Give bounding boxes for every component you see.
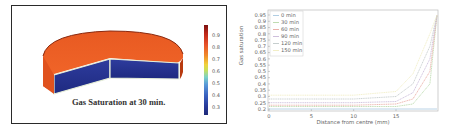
colorbar (204, 25, 208, 115)
y-tick-label: 0.6 (258, 56, 266, 62)
gas-saturation-chart: 0.950.90.850.80.750.70.650.60.550.50.450… (235, 0, 451, 137)
y-tick-label: 0.3 (258, 93, 266, 99)
y-tick-label: 0.65 (254, 49, 266, 55)
y-tick-label: 0.8 (258, 31, 266, 37)
y-tick-label: 0.95 (254, 12, 266, 18)
colorbar-tick: 0.3 (212, 104, 220, 110)
colorbar-tick: 0.4 (212, 92, 220, 98)
colorbar-tick: 0.8 (212, 44, 220, 50)
legend-entry: 60 min (281, 26, 299, 32)
x-axis-label: Distance from centre (mm) (316, 119, 389, 125)
colorbar-tick: 0.9 (212, 32, 220, 38)
y-tick-label: 0.7 (258, 43, 266, 49)
y-tick-label: 0.85 (254, 24, 266, 30)
y-tick-label: 0.25 (254, 100, 266, 106)
cylinder-cutaway-render (12, 6, 228, 125)
y-tick-label: 0.5 (258, 68, 266, 74)
y-tick-label: 0.35 (254, 87, 266, 93)
y-tick-label: 0.2 (258, 106, 266, 112)
y-tick-label: 0.55 (254, 62, 266, 68)
x-tick-label: 5 (310, 113, 313, 119)
y-tick-label: 0.9 (258, 18, 266, 24)
legend-entry: 120 min (281, 40, 302, 46)
figure-caption: Gas Saturation at 30 min. (72, 97, 165, 107)
simulation-figure-panel: Gas Saturation at 30 min. 0.9 0.8 0.7 0.… (11, 5, 227, 124)
colorbar-tick: 0.5 (212, 80, 220, 86)
y-tick-label: 0.4 (258, 81, 267, 87)
legend-entry: 30 min (281, 19, 299, 25)
y-tick-label: 0.45 (254, 74, 266, 80)
x-tick-label: 15 (393, 113, 400, 119)
line-chart: 0.950.90.850.80.750.70.650.60.550.50.450… (235, 0, 451, 137)
legend-entry: 150 min (281, 47, 302, 53)
x-tick-label: 0 (267, 113, 270, 119)
legend-entry: 90 min (281, 33, 299, 39)
colorbar-tick: 0.6 (212, 68, 220, 74)
colorbar-tick: 0.7 (212, 56, 220, 62)
legend-entry: 0 min (281, 12, 296, 18)
y-axis-label: Gas saturation (238, 26, 244, 66)
y-tick-label: 0.75 (254, 37, 266, 43)
